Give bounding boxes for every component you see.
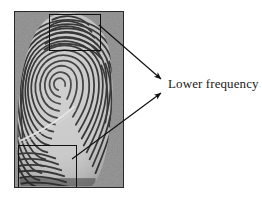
figure-annotated-fingerprint: Lower frequency [0,0,262,198]
roi-lower-region [18,145,77,188]
roi-upper-region [49,14,101,51]
fingerprint-image [14,11,124,188]
label-lower-frequency: Lower frequency [168,76,259,91]
